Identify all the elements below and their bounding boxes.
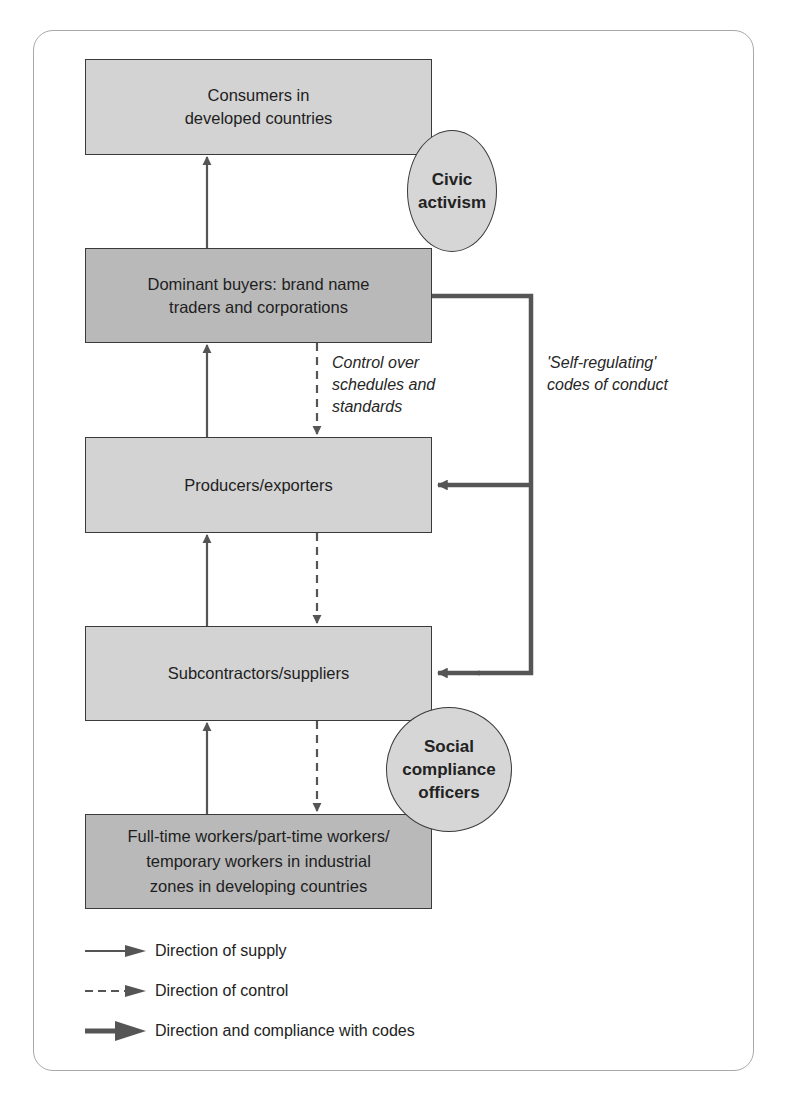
legend-label-control: Direction of control <box>155 982 288 1000</box>
legend-label-codes: Direction and compliance with codes <box>155 1022 415 1040</box>
legend-label-supply: Direction of supply <box>155 942 287 960</box>
legend-solid-arrow-icon <box>85 944 147 958</box>
node-producers: Producers/exporters <box>85 437 432 533</box>
circle-social-compliance-officers: Social compliance officers <box>386 707 512 832</box>
legend-dashed-arrow-icon <box>85 984 147 998</box>
legend-thick-arrow-icon <box>85 1021 147 1041</box>
legend-item-control: Direction of control <box>85 980 288 1002</box>
node-workers: Full-time workers/part-time workers/ tem… <box>85 814 432 909</box>
legend-item-codes: Direction and compliance with codes <box>85 1020 415 1042</box>
node-dominant-buyers: Dominant buyers: brand name traders and … <box>85 248 432 343</box>
node-subcontractors: Subcontractors/suppliers <box>85 626 432 721</box>
annotation-self-regulating-codes: 'Self-regulating' codes of conduct <box>547 352 668 396</box>
annotation-control-over-schedules: Control over schedules and standards <box>332 352 435 418</box>
legend-item-supply: Direction of supply <box>85 940 287 962</box>
node-consumers: Consumers in developed countries <box>85 59 432 155</box>
circle-civic-activism: Civic activism <box>407 130 497 252</box>
connector-layer <box>0 0 787 1098</box>
